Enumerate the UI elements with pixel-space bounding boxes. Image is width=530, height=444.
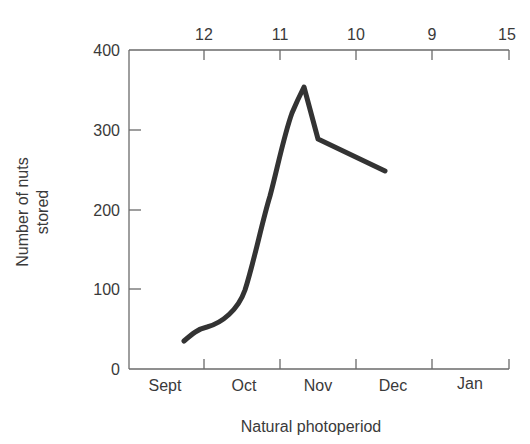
- month-label: Nov: [304, 377, 332, 394]
- month-label: Sept: [149, 377, 182, 394]
- y-axis-title-line1: Number of nuts: [14, 157, 31, 266]
- top-axis-label: 11: [272, 26, 289, 43]
- month-label: Oct: [232, 377, 257, 394]
- x-axis-title: Natural photoperiod: [241, 418, 382, 435]
- y-axis-title-line2: stored: [34, 190, 51, 234]
- axes: [129, 50, 509, 369]
- top-axis-label: 12: [195, 26, 213, 43]
- y-tick-label: 300: [93, 122, 120, 139]
- data-series-line: [184, 87, 385, 341]
- month-label: Jan: [457, 375, 483, 392]
- y-tick-label: 400: [93, 42, 120, 59]
- top-axis-label: 9: [428, 26, 437, 43]
- y-tick-label: 100: [93, 281, 120, 298]
- month-label: Dec: [379, 377, 407, 394]
- y-tick-label: 0: [111, 361, 120, 378]
- y-tick-label: 200: [93, 202, 120, 219]
- chart: 400 300 200 100 0 12 11 10 9 15 Sept Oct…: [0, 0, 530, 444]
- top-axis-label: 10: [347, 26, 365, 43]
- top-axis-label: 15: [498, 26, 516, 43]
